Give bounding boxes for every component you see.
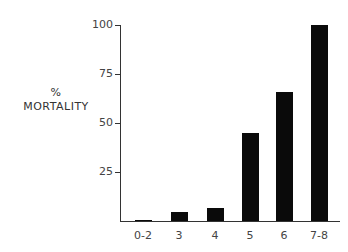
x-axis (120, 221, 340, 222)
y-axis-label-mortality: MORTALITY (16, 100, 96, 114)
y-tick (115, 74, 120, 75)
bar-3 (171, 212, 188, 221)
x-tick-label: 6 (269, 229, 299, 242)
y-tick (115, 25, 120, 26)
y-tick-label: 50 (80, 117, 113, 129)
x-tick-label: 3 (164, 229, 194, 242)
y-axis (120, 25, 121, 222)
x-tick-label: 5 (235, 229, 265, 242)
bar-5 (242, 133, 259, 221)
y-tick-label: 25 (80, 166, 113, 178)
bar-chart: % MORTALITY 255075100 0-234567-8 (0, 0, 348, 252)
bar-4 (207, 208, 224, 221)
y-tick (115, 123, 120, 124)
y-tick-label: 100 (80, 19, 113, 31)
bar-0-2 (135, 220, 152, 221)
y-axis-label-percent: % (16, 86, 96, 100)
y-axis-label: % MORTALITY (16, 86, 96, 114)
x-tick-label: 4 (200, 229, 230, 242)
bar-7-8 (311, 25, 328, 221)
y-tick (115, 172, 120, 173)
x-tick-label: 0-2 (128, 229, 158, 242)
y-tick-label: 75 (80, 68, 113, 80)
bar-6 (276, 92, 293, 221)
x-tick-label: 7-8 (304, 229, 334, 242)
